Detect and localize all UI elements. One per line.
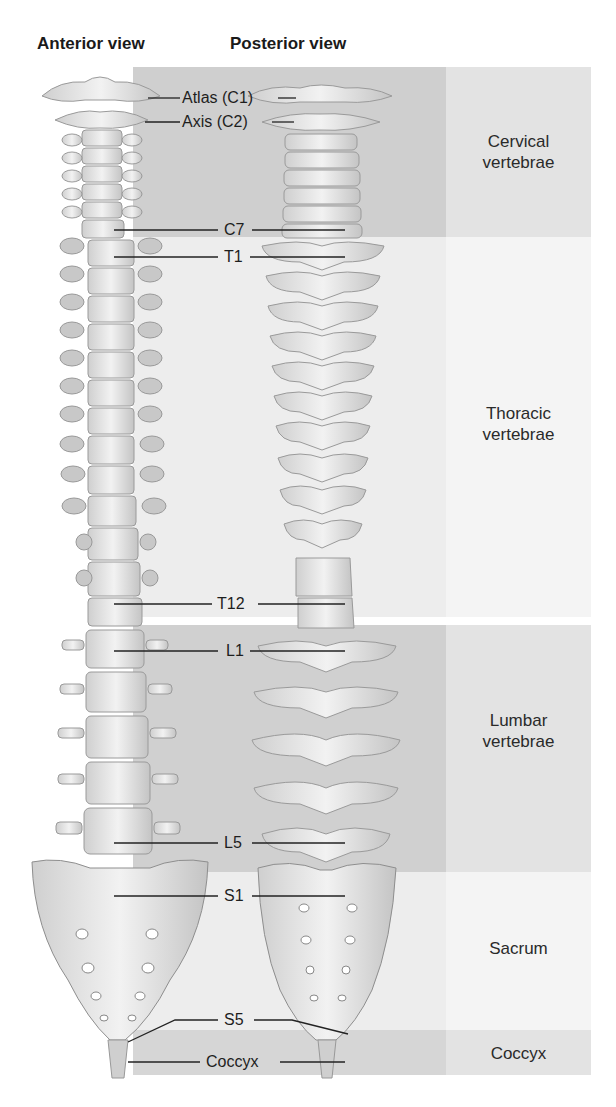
posterior-spine xyxy=(248,85,400,1078)
region-label-line1: Coccyx xyxy=(446,1043,591,1064)
callout-t1: T1 xyxy=(222,248,245,266)
callout-axis: Axis (C2) xyxy=(180,113,250,131)
region-label-line1: Lumbar xyxy=(446,710,591,731)
region-label-lumbar: Lumbar vertebrae xyxy=(446,710,591,752)
callout-l5: L5 xyxy=(222,834,244,852)
anterior-spine xyxy=(32,77,208,1078)
region-label-thoracic: Thoracic vertebrae xyxy=(446,403,591,445)
callout-atlas: Atlas (C1) xyxy=(180,89,255,107)
region-label-line2: vertebrae xyxy=(446,731,591,752)
callout-s5: S5 xyxy=(222,1011,246,1029)
region-label-line2: vertebrae xyxy=(446,152,591,173)
callout-c7: C7 xyxy=(222,221,246,239)
region-label-cervical: Cervical vertebrae xyxy=(446,131,591,173)
region-label-line1: Sacrum xyxy=(446,938,591,959)
callout-l1: L1 xyxy=(224,642,246,660)
region-label-line1: Thoracic xyxy=(446,403,591,424)
callout-t12: T12 xyxy=(215,595,247,613)
region-label-line2: vertebrae xyxy=(446,424,591,445)
region-label-line1: Cervical xyxy=(446,131,591,152)
region-label-coccyx: Coccyx xyxy=(446,1043,591,1064)
region-label-sacrum: Sacrum xyxy=(446,938,591,959)
callout-s1: S1 xyxy=(222,887,246,905)
callout-coccyx: Coccyx xyxy=(204,1053,260,1071)
